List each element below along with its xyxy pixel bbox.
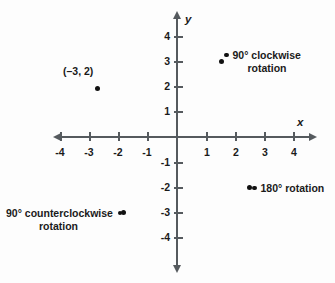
x-tick-label-4: 4 bbox=[282, 147, 306, 158]
x-tick-label-1: 1 bbox=[195, 147, 219, 158]
y-tick-minus1 bbox=[174, 162, 183, 164]
annotation-90-counterclockwise-line1: 90° counterclockwise bbox=[6, 207, 113, 219]
y-tick-4 bbox=[174, 36, 183, 38]
x-axis-line bbox=[60, 136, 310, 138]
x-tick-label-minus3: -3 bbox=[77, 147, 101, 158]
annotation-90-clockwise-line1: 90° clockwise bbox=[233, 49, 301, 61]
y-tick-label-4: 4 bbox=[146, 31, 170, 42]
annotation-bullet-icon bbox=[224, 53, 229, 58]
annotation-bullet-icon bbox=[252, 186, 257, 191]
y-tick-1 bbox=[174, 111, 183, 113]
y-axis-line bbox=[176, 18, 178, 266]
x-tick-2 bbox=[235, 132, 237, 141]
annotation-90-counterclockwise-line2: rotation bbox=[6, 220, 120, 233]
x-tick-minus4 bbox=[60, 132, 62, 141]
x-axis-right-arrow-icon bbox=[309, 133, 317, 141]
coordinate-plane-figure: -4 -3 -2 -1 1 2 3 4 4 3 2 1 -1 -2 -3 -4 … bbox=[0, 0, 335, 283]
y-tick-label-minus4: -4 bbox=[146, 232, 170, 243]
annotation-90-clockwise: 90° clockwise rotation bbox=[224, 49, 301, 74]
x-tick-label-2: 2 bbox=[224, 147, 248, 158]
annotation-90-clockwise-line1-row: 90° clockwise bbox=[224, 49, 301, 62]
y-tick-minus4 bbox=[174, 237, 183, 239]
x-tick-label-minus1: -1 bbox=[135, 147, 159, 158]
x-tick-minus3 bbox=[89, 132, 91, 141]
y-axis-down-arrow-icon bbox=[173, 265, 181, 273]
x-tick-label-minus2: -2 bbox=[106, 147, 130, 158]
x-axis-label: x bbox=[297, 117, 303, 129]
annotation-90-clockwise-line2: rotation bbox=[224, 62, 301, 75]
annotation-90-counterclockwise-line1-row: 90° counterclockwise bbox=[6, 207, 120, 220]
y-tick-label-minus3: -3 bbox=[146, 207, 170, 218]
y-axis-up-arrow-icon bbox=[173, 11, 181, 19]
point-preimage bbox=[95, 86, 100, 91]
annotation-180-rotation: 180° rotation bbox=[252, 182, 324, 195]
y-tick-label-2: 2 bbox=[146, 81, 170, 92]
point-preimage-label: (–3, 2) bbox=[63, 66, 93, 77]
y-tick-label-1: 1 bbox=[146, 106, 170, 117]
annotation-180-rotation-text: 180° rotation bbox=[261, 182, 325, 194]
x-tick-4 bbox=[293, 132, 295, 141]
y-axis-label: y bbox=[185, 14, 191, 26]
y-tick-label-minus2: -2 bbox=[146, 182, 170, 193]
x-tick-3 bbox=[264, 132, 266, 141]
y-tick-label-minus1: -1 bbox=[146, 157, 170, 168]
y-tick-2 bbox=[174, 86, 183, 88]
x-tick-minus2 bbox=[118, 132, 120, 141]
y-tick-minus2 bbox=[174, 187, 183, 189]
y-tick-3 bbox=[174, 61, 183, 63]
y-tick-minus3 bbox=[174, 212, 183, 214]
annotation-90-counterclockwise: 90° counterclockwise rotation bbox=[6, 207, 120, 232]
x-tick-label-minus4: -4 bbox=[48, 147, 72, 158]
x-tick-1 bbox=[206, 132, 208, 141]
y-tick-label-3: 3 bbox=[146, 56, 170, 67]
x-tick-label-3: 3 bbox=[253, 147, 277, 158]
x-tick-minus1 bbox=[147, 132, 149, 141]
